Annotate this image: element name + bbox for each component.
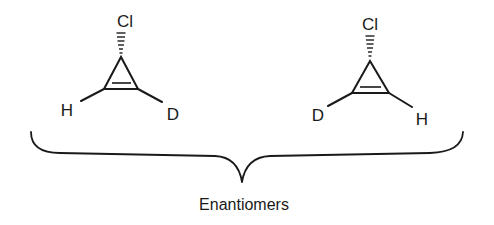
molecule-left: Cl H D [61, 12, 179, 124]
right-top-label: Cl [362, 15, 378, 34]
left-bottom-right-label: D [167, 105, 179, 124]
left-top-label: Cl [117, 12, 133, 31]
left-cyclopropene-ring [104, 57, 138, 89]
right-cyclopropene-ring [352, 61, 389, 93]
molecule-right: Cl D H [312, 15, 428, 129]
right-bond-br [389, 93, 412, 107]
right-bottom-right-label: H [416, 110, 428, 129]
brace-label: Enantiomers [199, 196, 289, 213]
right-hashed-wedge [366, 36, 375, 56]
left-hashed-wedge [117, 33, 126, 53]
left-bond-bl [81, 89, 104, 101]
enantiomers-diagram: Cl H D Cl [0, 0, 494, 225]
right-bottom-left-label: D [312, 106, 324, 125]
left-bond-br [138, 89, 162, 102]
curly-brace [31, 132, 463, 182]
right-bond-bl [328, 93, 352, 106]
left-bottom-left-label: H [61, 101, 73, 120]
